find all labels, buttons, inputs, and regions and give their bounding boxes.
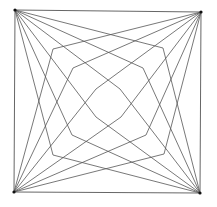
inner-polyline-0	[14, 12, 201, 192]
inner-polyline-1	[15, 10, 200, 193]
outer-polyline-3	[15, 10, 200, 193]
middle-polyline-2	[14, 12, 201, 192]
outer-polyline-0	[14, 12, 201, 192]
inner-polyline-2	[14, 12, 201, 192]
corner-node-2	[198, 191, 201, 194]
outer-polyline-1	[15, 10, 200, 193]
middle-polyline-1	[15, 10, 200, 193]
middle-polyline-0	[14, 12, 201, 192]
middle-polyline-3	[15, 10, 200, 193]
corner-node-0	[13, 8, 16, 11]
string-art-figure	[0, 0, 217, 207]
corner-node-3	[12, 190, 15, 193]
corner-node-1	[199, 10, 202, 13]
figure-canvas	[0, 0, 217, 207]
inner-polyline-3	[15, 10, 200, 193]
outer-polyline-2	[14, 12, 201, 192]
border-square	[14, 10, 201, 193]
